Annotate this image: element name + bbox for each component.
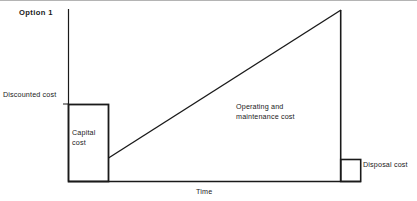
operating-cost-label-line-1: Operating and [236, 102, 284, 111]
x-axis-label: Time [196, 187, 212, 196]
page-title: Option 1 [19, 8, 53, 17]
capital-cost-label: Capitalcost [72, 128, 95, 147]
capital-cost-label-line-1: Capital [72, 128, 95, 137]
operating-cost-label: Operating andmaintenance cost [236, 102, 295, 122]
disposal-cost-label: Disposal cost [363, 160, 408, 169]
y-axis-label: Discounted cost [3, 90, 56, 99]
cost-profile-drawing [0, 1, 417, 201]
operating-cost-ramp [109, 10, 342, 158]
disposal-cost-block [341, 160, 361, 182]
capital-cost-label-line-2: cost [72, 138, 86, 147]
diagram-canvas: Option 1 Discounted cost Capitalcost Ope… [0, 0, 417, 201]
operating-cost-label-line-2: maintenance cost [236, 112, 295, 121]
